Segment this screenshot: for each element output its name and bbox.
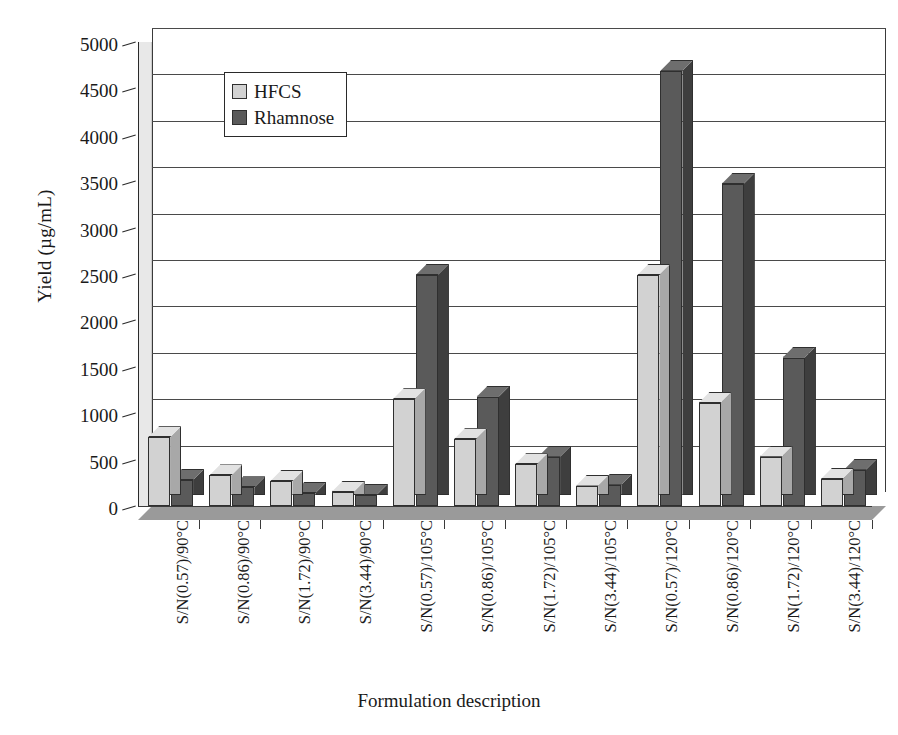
bar-front-face [209, 475, 231, 506]
x-axis-title: Formulation description [0, 690, 898, 712]
bar-hfcs [393, 399, 415, 506]
bar-front-face [393, 399, 415, 506]
y-tick-mark [122, 366, 136, 371]
bar-rhamnose [355, 495, 377, 506]
x-tick-label: S/N(1.72)/120°C [786, 520, 803, 670]
bar-side-face [659, 264, 670, 495]
bar-hfcs [760, 457, 782, 506]
y-tick-mark [122, 181, 136, 186]
y-tick-mark [122, 459, 136, 464]
bar-front-face [699, 403, 721, 506]
bar-front-face [760, 457, 782, 506]
x-tick-label: S/N(3.44)/105°C [603, 520, 620, 670]
x-tick-label: S/N(0.57)/120°C [664, 520, 681, 670]
x-tick-label: S/N(0.57)/105°C [419, 520, 436, 670]
bar-hfcs [637, 275, 659, 506]
x-tick-label: S/N(0.86)/90°C [236, 520, 253, 670]
legend-swatch-rhamnose [232, 110, 247, 125]
y-tick-label: 0 [109, 499, 119, 518]
bar-hfcs [148, 437, 170, 506]
x-tick-label: S/N(3.44)/90°C [358, 520, 375, 670]
x-tick-label: S/N(0.86)/120°C [725, 520, 742, 670]
x-axis-tick-labels: S/N(0.57)/90°CS/N(0.86)/90°CS/N(1.72)/90… [138, 520, 886, 670]
bar-chart-figure: Yield (µg/mL) 05001000150020002500300035… [0, 0, 898, 735]
y-tick-mark [122, 273, 136, 278]
bar-front-face [821, 479, 843, 506]
bar-hfcs [821, 479, 843, 506]
legend-label-rhamnose: Rhamnose [254, 108, 334, 127]
bar-side-face [744, 173, 755, 495]
x-tick-label: S/N(1.72)/90°C [297, 520, 314, 670]
y-tick-label: 1500 [80, 359, 118, 378]
y-axis-tick-labels: 0500100015002000250030003500400045005000 [52, 30, 138, 518]
y-tick-mark [122, 227, 136, 232]
bar-side-face [415, 388, 426, 495]
legend-item-rhamnose: Rhamnose [232, 104, 334, 130]
bar-front-face [637, 275, 659, 506]
y-tick-label: 1000 [80, 406, 118, 425]
bar-front-face [515, 464, 537, 506]
x-tick-label: S/N(0.57)/90°C [175, 520, 192, 670]
y-tick-mark [122, 41, 136, 46]
bar-side-face [499, 386, 510, 496]
bar-front-face [270, 481, 292, 506]
y-tick-label: 2500 [80, 267, 118, 286]
bar-front-face [332, 492, 354, 506]
bar-side-face [438, 264, 449, 495]
bar-front-face [148, 437, 170, 506]
bar-side-face [170, 426, 181, 495]
bar-hfcs [699, 403, 721, 506]
y-tick-label: 4000 [80, 127, 118, 146]
bar-side-face [805, 347, 816, 495]
bar-front-face [454, 439, 476, 506]
y-tick-label: 3500 [80, 174, 118, 193]
bar-hfcs [332, 492, 354, 506]
y-tick-label: 3000 [80, 220, 118, 239]
y-tick-label: 5000 [80, 35, 118, 54]
x-tick-label: S/N(1.72)/105°C [542, 520, 559, 670]
x-tick-label: S/N(3.44)/120°C [847, 520, 864, 670]
y-tick-mark [122, 505, 136, 510]
bar-side-face [476, 428, 487, 495]
bar-front-face [355, 495, 377, 506]
y-tick-mark [122, 320, 136, 325]
y-tick-label: 500 [90, 452, 119, 471]
bar-hfcs [270, 481, 292, 506]
legend-item-hfcs: HFCS [232, 78, 334, 104]
bar-hfcs [454, 439, 476, 506]
bar-hfcs [515, 464, 537, 506]
bar-hfcs [209, 475, 231, 506]
x-tick-label: S/N(0.86)/105°C [480, 520, 497, 670]
legend: HFCS Rhamnose [224, 72, 347, 137]
bar-hfcs [576, 486, 598, 506]
bar-side-face [682, 60, 693, 495]
y-tick-label: 4500 [80, 81, 118, 100]
legend-label-hfcs: HFCS [254, 82, 302, 101]
y-tick-mark [122, 134, 136, 139]
y-tick-mark [122, 88, 136, 93]
bar-side-face [721, 392, 732, 495]
y-tick-label: 2000 [80, 313, 118, 332]
bar-front-face [576, 486, 598, 506]
y-tick-mark [122, 413, 136, 418]
legend-swatch-hfcs [232, 84, 247, 99]
